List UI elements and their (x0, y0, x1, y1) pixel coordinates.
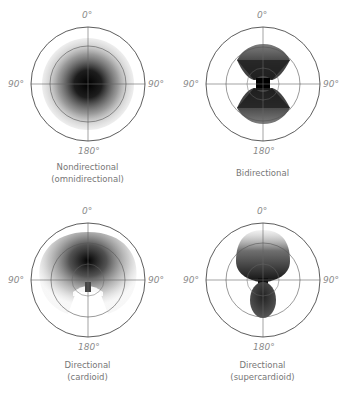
caption-subtitle: (supercardioid) (175, 371, 349, 383)
panel-bidirectional: 0° 90° 90° 180° Bidirectional (175, 0, 349, 198)
label-90-right: 90° (323, 275, 339, 285)
caption-title: Nondirectional (0, 161, 175, 173)
label-180-degrees: 180° (78, 146, 100, 156)
panel-supercardioid: 0° 90° 90° 180° Directional (supercardio… (175, 196, 349, 394)
caption-title: Bidirectional (175, 167, 349, 179)
label-90-right: 90° (323, 79, 339, 89)
caption: Directional (cardioid) (0, 359, 175, 383)
caption-title: Directional (175, 359, 349, 371)
label-90-right: 90° (148, 275, 164, 285)
label-90-left: 90° (8, 79, 24, 89)
caption-subtitle: (omnidirectional) (0, 173, 175, 185)
caption: Directional (supercardioid) (175, 359, 349, 383)
caption-title: Directional (0, 359, 175, 371)
label-180-degrees: 180° (78, 342, 100, 352)
panel-cardioid: 0° 90° 90° 180° Directional (cardioid) (0, 196, 175, 394)
label-0-degrees: 0° (82, 10, 92, 20)
label-90-left: 90° (183, 275, 199, 285)
caption: Bidirectional (175, 167, 349, 179)
label-0-degrees: 0° (257, 206, 267, 216)
label-90-right: 90° (148, 79, 164, 89)
label-90-left: 90° (183, 79, 199, 89)
label-180-degrees: 180° (253, 342, 275, 352)
label-0-degrees: 0° (257, 10, 267, 20)
label-0-degrees: 0° (82, 206, 92, 216)
caption-subtitle: (cardioid) (0, 371, 175, 383)
caption: Nondirectional (omnidirectional) (0, 161, 175, 185)
label-180-degrees: 180° (253, 146, 275, 156)
label-90-left: 90° (8, 275, 24, 285)
panel-omnidirectional: 0° 90° 90° 180° Nondirectional (omnidire… (0, 0, 175, 198)
